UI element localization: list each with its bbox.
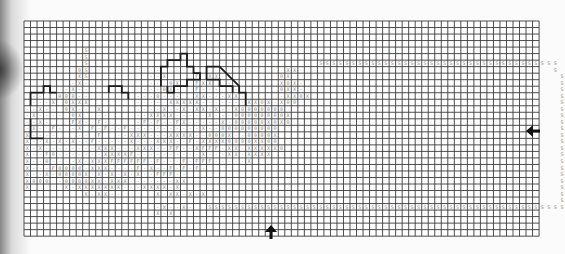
stitch-symbol: X — [182, 119, 185, 125]
stitch-symbol: S — [463, 60, 466, 66]
stitch-symbol: S — [430, 60, 433, 66]
stitch-symbol: F — [208, 158, 211, 164]
stitch-symbol: F — [137, 158, 140, 164]
stitch-symbol: S — [528, 60, 531, 66]
stitch-symbol: S — [300, 204, 303, 210]
stitch-symbol: X — [26, 145, 29, 151]
stitch-symbol: - — [111, 138, 114, 144]
stitch-symbol: 0 — [58, 93, 61, 99]
stitch-symbol: - — [156, 106, 159, 112]
stitch-symbol: 0 — [78, 178, 81, 184]
stitch-symbol: - — [91, 145, 94, 151]
stitch-symbol: X — [163, 73, 166, 79]
stitch-symbol: X — [195, 99, 198, 105]
stitch-symbol: X — [221, 138, 224, 144]
stitch-symbol: X — [104, 191, 107, 197]
stitch-symbol: - — [156, 73, 159, 79]
stitch-symbol: S — [326, 60, 329, 66]
stitch-symbol: - — [221, 112, 224, 118]
stitch-symbol: X — [39, 145, 42, 151]
stitch-symbol: F — [111, 158, 114, 164]
stitch-symbol: - — [274, 99, 277, 105]
stitch-symbol: S — [254, 204, 257, 210]
stitch-symbol: X — [124, 178, 127, 184]
stitch-symbol: - — [97, 112, 100, 118]
stitch-symbol: X — [169, 86, 172, 92]
stitch-symbol: - — [137, 184, 140, 190]
stitch-symbol: - — [150, 106, 153, 112]
stitch-symbol: 0 — [260, 125, 263, 131]
stitch-symbol: F — [169, 145, 172, 151]
stitch-symbol: F — [97, 119, 100, 125]
stitch-symbol: S — [391, 60, 394, 66]
stitch-symbol: X — [130, 138, 133, 144]
stitch-symbol: - — [189, 125, 192, 131]
stitch-symbol: 0 — [260, 119, 263, 125]
stitch-symbol: 0 — [274, 106, 277, 112]
stitch-symbol: X — [247, 151, 250, 157]
stitch-symbol: S — [332, 204, 335, 210]
stitch-symbol: S — [508, 60, 511, 66]
stitch-symbol: - — [300, 80, 303, 86]
stitch-symbol: - — [124, 184, 127, 190]
stitch-symbol: 0 — [274, 138, 277, 144]
stitch-symbol: 0 — [241, 138, 244, 144]
stitch-symbol: - — [189, 158, 192, 164]
stitch-symbol: S — [476, 60, 479, 66]
stitch-symbol: - — [241, 132, 244, 138]
stitch-symbol: - — [169, 158, 172, 164]
stitch-symbol: - — [163, 178, 166, 184]
stitch-symbol: F — [71, 119, 74, 125]
stitch-symbol: - — [280, 93, 283, 99]
stitch-symbol: X — [78, 119, 81, 125]
stitch-symbol: - — [91, 119, 94, 125]
stitch-symbol: F — [91, 125, 94, 131]
stitch-symbol: X — [267, 119, 270, 125]
stitch-symbol: - — [169, 125, 172, 131]
stitch-symbol: - — [189, 165, 192, 171]
stitch-symbol: - — [163, 93, 166, 99]
stitch-symbol: X — [26, 171, 29, 177]
stitch-symbol: - — [241, 145, 244, 151]
stitch-symbol: X — [287, 73, 290, 79]
stitch-symbol: S — [410, 204, 413, 210]
stitch-symbol: 0 — [267, 106, 270, 112]
stitch-symbol: 0 — [287, 99, 290, 105]
stitch-symbol: X — [156, 210, 159, 216]
stitch-symbol: 0 — [84, 178, 87, 184]
stitch-symbol: S — [391, 204, 394, 210]
stitch-symbol: X — [169, 132, 172, 138]
stitch-symbol: F — [208, 145, 211, 151]
stitch-symbol: 0 — [267, 125, 270, 131]
stitch-symbol: - — [91, 151, 94, 157]
stitch-symbol: X — [104, 184, 107, 190]
stitch-symbol: - — [176, 112, 179, 118]
stitch-symbol: S — [345, 60, 348, 66]
stitch-symbol: S — [84, 67, 87, 73]
stitch-symbol: S — [417, 60, 420, 66]
stitch-symbol: 0 — [287, 80, 290, 86]
stitch-symbol: - — [169, 184, 172, 190]
stitch-symbol: S — [554, 204, 557, 210]
stitch-symbol: X — [208, 80, 211, 86]
stitch-symbol: - — [143, 112, 146, 118]
stitch-symbol: X — [182, 132, 185, 138]
stitch-symbol: - — [215, 119, 218, 125]
stitch-symbol: S — [534, 60, 537, 66]
stitch-symbol: - — [195, 112, 198, 118]
stitch-symbol: 0 — [241, 112, 244, 118]
stitch-symbol: - — [156, 125, 159, 131]
stitch-symbol: S — [560, 165, 563, 171]
stitch-symbol: X — [52, 99, 55, 105]
stitch-symbol: S — [287, 204, 290, 210]
stitch-symbol: - — [137, 151, 140, 157]
stitch-symbol: - — [163, 151, 166, 157]
stitch-symbol: F — [163, 171, 166, 177]
stitch-symbol: - — [65, 145, 68, 151]
stitch-symbol: - — [195, 151, 198, 157]
stitch-symbol: - — [182, 145, 185, 151]
stitch-symbol: X — [267, 99, 270, 105]
stitch-symbol: - — [104, 171, 107, 177]
stitch-symbol: X — [163, 138, 166, 144]
stitch-symbol: X — [150, 145, 153, 151]
